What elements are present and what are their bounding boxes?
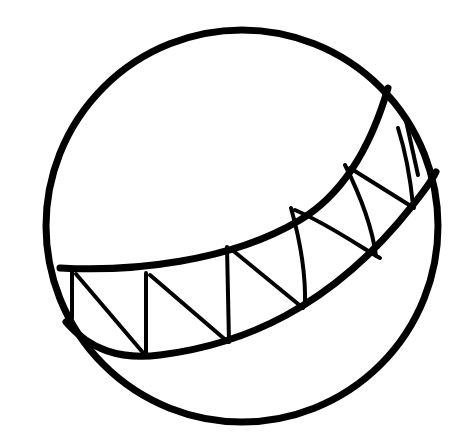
ball-outline xyxy=(46,30,438,422)
drawing-canvas xyxy=(0,0,464,440)
band-upper-edge xyxy=(60,88,388,269)
ball-illustration xyxy=(0,0,464,440)
